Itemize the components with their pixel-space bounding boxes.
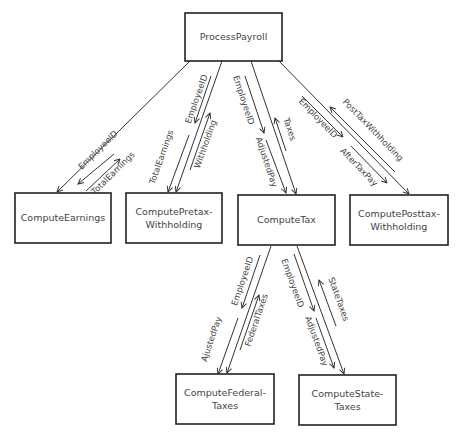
flow-label-employeeid: EmployeeID <box>279 257 306 309</box>
flow-label-taxes: Taxes <box>281 115 298 142</box>
edge-payroll-to-earnings <box>57 61 190 192</box>
flow-label-aftertaxpay: AfterTaxPay <box>338 146 380 188</box>
node-compute-federal-taxes: ComputeFederal- Taxes <box>176 374 274 424</box>
node-label: ComputeEarnings <box>21 212 106 223</box>
flow-label-adjustedpay: AdjustedPay <box>254 136 280 189</box>
flow-group-earnings: EmployeeID TotalEarnings <box>76 128 137 197</box>
node-compute-tax: ComputeTax <box>238 195 335 245</box>
node-compute-posttax-withholding: ComputePosttax- Withholding <box>350 195 448 245</box>
flow-group-state: EmployeeID AdjustedPay StateTaxes <box>279 254 351 368</box>
flow-group-tax: EmployeeID AdjustedPay Taxes <box>231 74 298 193</box>
node-process-payroll: ProcessPayroll <box>185 13 282 61</box>
node-label-line2: Taxes <box>333 401 360 412</box>
node-label-line1: ComputePretax- <box>135 206 212 217</box>
node-label-line1: ComputeFederal- <box>184 387 266 398</box>
flow-label-federaltaxes: FederalTaxes <box>243 292 270 348</box>
flow-label-totalearnings: TotalEarnings <box>147 128 176 186</box>
node-compute-pretax-withholding: ComputePretax- Withholding <box>126 193 222 243</box>
flow-label-ajustedpay: AjustedPay <box>199 315 224 363</box>
edge-payroll-to-posttax <box>279 61 409 194</box>
node-label-line2: Withholding <box>371 221 428 232</box>
node-label-line1: ComputeState- <box>312 388 384 399</box>
flow-group-federal: EmployeeID AjustedPay FederalTaxes <box>199 255 270 374</box>
flow-label-employeeid: EmployeeID <box>183 73 210 125</box>
flow-label-statetaxes: StateTaxes <box>326 276 351 323</box>
node-compute-earnings: ComputeEarnings <box>15 193 111 243</box>
node-label: ProcessPayroll <box>200 31 268 42</box>
node-label-line2: Taxes <box>211 400 238 411</box>
flow-label-adjustedpay: AdjustedPay <box>303 315 330 367</box>
node-label: ComputeTax <box>257 214 316 225</box>
node-compute-state-taxes: ComputeState- Taxes <box>299 375 396 425</box>
payroll-structure-chart: EmployeeID TotalEarnings EmployeeID Tota… <box>0 0 458 436</box>
flow-arrow-down-icon <box>218 318 238 374</box>
node-label-line1: ComputePosttax- <box>358 208 440 219</box>
flow-label-employeeid: EmployeeID <box>297 96 340 140</box>
node-label-line2: Withholding <box>146 219 203 230</box>
